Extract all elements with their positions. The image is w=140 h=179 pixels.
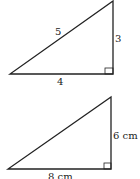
triangle-shape: [8, 97, 111, 169]
hypotenuse-label: 5: [55, 26, 61, 37]
triangle-shape: [10, 1, 113, 74]
right-angle-marker: [104, 163, 111, 169]
triangle-6-8: 6 cm 8 cm: [8, 97, 138, 179]
vertical-leg-label: 3: [115, 33, 121, 44]
right-angle-marker: [105, 68, 113, 74]
horizontal-leg-label: 8 cm: [48, 171, 73, 179]
diagram: 5 3 4 6 cm 8 cm: [0, 0, 140, 179]
horizontal-leg-label: 4: [57, 76, 63, 87]
vertical-leg-label: 6 cm: [113, 130, 138, 141]
triangle-3-4-5: 5 3 4: [10, 1, 121, 87]
